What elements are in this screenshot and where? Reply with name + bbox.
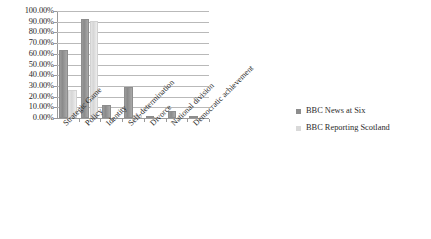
bar-group xyxy=(124,11,142,118)
legend-item[interactable]: BBC Reporting Scotland xyxy=(296,120,428,137)
y-axis-tick-label: 50.00% xyxy=(29,60,54,68)
y-axis-tick-label: 0.00% xyxy=(33,114,54,122)
y-axis-tick-label: 20.00% xyxy=(29,92,54,100)
y-axis-tick-label: 30.00% xyxy=(29,82,54,90)
bar-group xyxy=(102,11,120,118)
y-axis-labels: 0.00%10.00%20.00%30.00%40.00%50.00%60.00… xyxy=(0,11,56,119)
bar-group xyxy=(168,11,186,118)
y-axis-tick-label: 60.00% xyxy=(29,50,54,58)
y-axis-tick-label: 70.00% xyxy=(29,39,54,47)
y-axis-tick-label: 10.00% xyxy=(29,103,54,111)
bar[interactable] xyxy=(124,87,133,118)
legend-label: BBC Reporting Scotland xyxy=(306,124,390,132)
x-axis-category-labels: Strategic GamePolicyIdentitySelf-determi… xyxy=(57,122,222,232)
y-axis-tick-label: 80.00% xyxy=(29,28,54,36)
bar-group xyxy=(59,11,77,118)
bar[interactable] xyxy=(59,50,68,118)
legend-swatch-icon xyxy=(296,109,301,114)
legend-item[interactable]: BBC News at Six xyxy=(296,103,428,120)
chart-legend: BBC News at Six BBC Reporting Scotland xyxy=(296,103,428,137)
y-axis-tick-label: 100.00% xyxy=(25,7,54,15)
y-axis-tick-label: 90.00% xyxy=(29,17,54,25)
legend-label: BBC News at Six xyxy=(306,107,365,115)
legend-swatch-icon xyxy=(296,126,301,131)
y-axis-tick-label: 40.00% xyxy=(29,71,54,79)
bar-chart: 0.00%10.00%20.00%30.00%40.00%50.00%60.00… xyxy=(0,0,431,239)
